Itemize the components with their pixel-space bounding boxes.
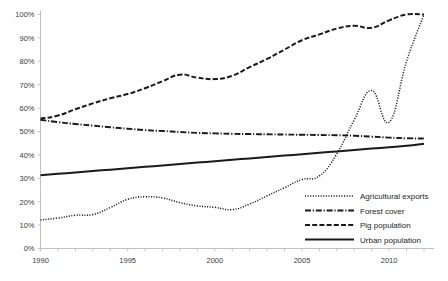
x-axis-tick-label: 2005 (294, 256, 311, 265)
legend-label: Urban population (360, 236, 421, 245)
y-axis-tick-label: 80% (19, 57, 34, 66)
y-axis-tick-label: 10% (19, 221, 34, 230)
series-line-forest-cover (41, 120, 425, 139)
x-axis-tick-label: 1990 (32, 256, 49, 265)
data-series-group (41, 14, 425, 220)
x-axis-tick-label: 1995 (119, 256, 136, 265)
y-axis-tick-label: 40% (19, 151, 34, 160)
y-axis-tick-label: 50% (19, 127, 34, 136)
y-axis-tick-label: 90% (19, 34, 34, 43)
series-line-pig-population (41, 14, 425, 119)
y-axis-tick-label: 20% (19, 198, 34, 207)
y-axis-tick-label: 100% (15, 10, 35, 19)
series-line-urban-population (41, 144, 425, 176)
y-axis-tick-label: 30% (19, 174, 34, 183)
x-axis-tick-label: 2010 (381, 256, 398, 265)
legend-label: Agricultural exports (360, 192, 428, 201)
line-chart: 0%10%20%30%40%50%60%70%80%90%100% 199019… (0, 0, 448, 281)
y-axis-tick-label: 70% (19, 81, 34, 90)
legend-label: Pig population (360, 221, 411, 230)
x-axis-tick-label: 2000 (206, 256, 223, 265)
y-axis-labels: 0%10%20%30%40%50%60%70%80%90%100% (15, 10, 35, 253)
chart-canvas: 0%10%20%30%40%50%60%70%80%90%100% 199019… (0, 0, 448, 281)
chart-legend: Agricultural exportsForest coverPig popu… (305, 192, 428, 245)
y-axis-tick-label: 60% (19, 104, 34, 113)
x-axis-labels: 19901995200020052010 (32, 256, 397, 265)
legend-label: Forest cover (360, 207, 405, 216)
y-axis-tick-label: 0% (24, 244, 35, 253)
series-line-agricultural-exports (41, 15, 425, 220)
